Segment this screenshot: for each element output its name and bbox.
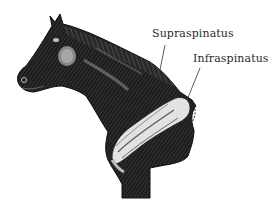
anatomy-figure: Supraspinatus Infraspinatus (0, 0, 272, 202)
supraspinatus-label: Supraspinatus (152, 27, 234, 40)
infraspinatus-label: Infraspinatus (193, 52, 269, 65)
infraspinatus-leader-line (187, 68, 200, 100)
eye (53, 38, 59, 42)
